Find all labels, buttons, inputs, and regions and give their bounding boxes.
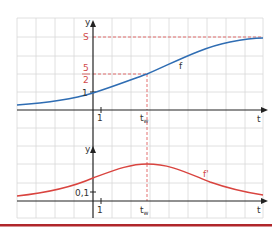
y-axis-arrow-icon [90, 20, 96, 27]
y-axis-bottom-arrow-icon [90, 146, 96, 153]
bottom-rule [0, 224, 272, 227]
x-tick-one-bottom: 1 [97, 205, 103, 215]
t-axis-label-bottom: t [257, 205, 261, 215]
x-tick-one: 1 [97, 113, 103, 123]
fprime-curve-label: f' [203, 169, 209, 179]
tw-label-bottom: tw [140, 205, 149, 216]
y-axis-label: y [85, 17, 91, 27]
f-curve-label: f [179, 61, 183, 71]
y-axis-label-bottom: y [85, 144, 91, 154]
s-label: S [83, 32, 89, 42]
y-tick-label-bottom: 0,1 [75, 188, 89, 198]
t-axis-bottom-arrow-icon [261, 198, 268, 204]
guide-lines [93, 37, 263, 110]
t-axis-label: t [257, 114, 261, 124]
y-tick-one: 1 [82, 88, 88, 98]
chart-figure: y t S 5 2 1 1 tw f y t 0,1 1 tw f' [0, 0, 278, 233]
half-s-denominator: 2 [83, 75, 89, 85]
t-axis-arrow-icon [261, 107, 268, 113]
half-s-numerator: 5 [83, 63, 89, 73]
